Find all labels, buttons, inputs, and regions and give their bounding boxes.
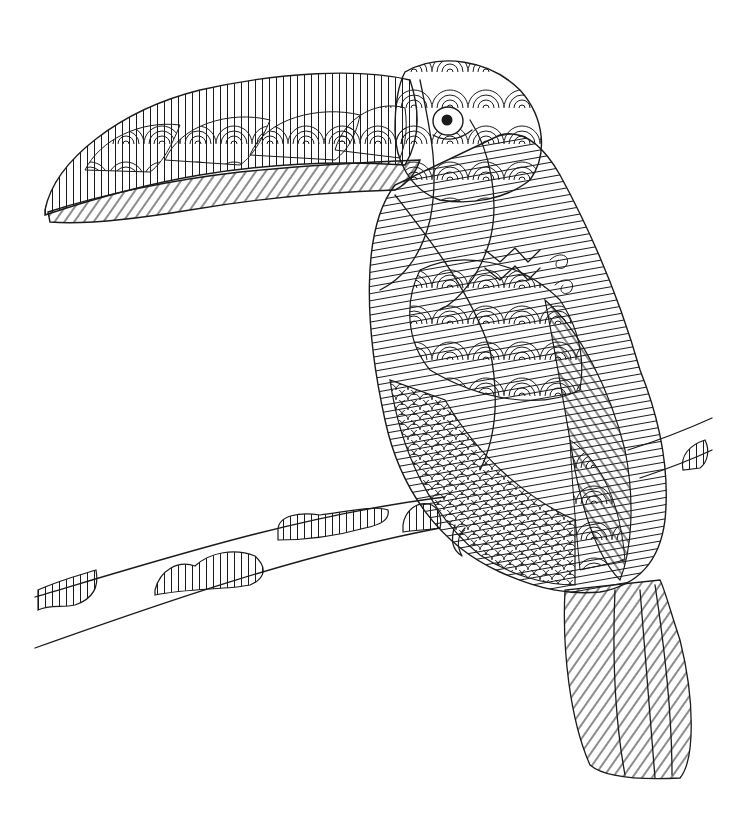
tail [564,580,691,779]
coloring-illustration: Black-and-white zentangle-style coloring… [0,0,753,816]
beak [45,73,420,223]
